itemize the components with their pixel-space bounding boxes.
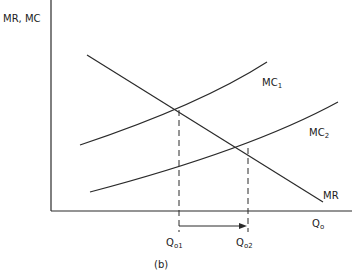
diagram-canvas xyxy=(0,0,354,274)
qo1-label: Qo1 xyxy=(166,237,183,250)
mc1-label: MC1 xyxy=(262,77,282,90)
x-axis-label: Qo xyxy=(312,218,324,231)
mc2-curve xyxy=(90,102,338,192)
mc1-curve xyxy=(80,62,267,145)
mr-label: MR xyxy=(323,190,339,201)
arrow-head-icon xyxy=(239,223,247,229)
y-axis-label: MR, MC xyxy=(3,13,41,24)
mr-curve xyxy=(87,55,323,202)
mc2-label: MC2 xyxy=(309,127,329,140)
caption: (b) xyxy=(154,259,168,270)
qo2-label: Qo2 xyxy=(236,237,253,250)
